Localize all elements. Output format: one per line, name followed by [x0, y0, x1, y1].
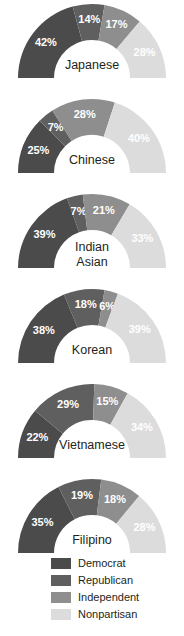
slice-value-label: 34% [131, 421, 153, 433]
slice-value-label: 28% [133, 521, 155, 533]
slice-value-label: 33% [131, 232, 153, 244]
slice-value-label: 35% [31, 516, 53, 528]
legend-item-nonpartisan: Nonpartisan [0, 607, 184, 622]
chart-svg: 42%14%17%28%Japanese [0, 0, 184, 95]
slice-value-label: 42% [35, 36, 57, 48]
half-donut-chart: 38%18%6%39%Korean [0, 285, 184, 380]
slice-value-label: 17% [105, 18, 127, 30]
slice-value-label: 14% [78, 13, 100, 25]
legend-swatch-icon [51, 575, 71, 586]
chart-svg: 25%7%28%40%Chinese [0, 95, 184, 190]
chart-group-name: Vietnamese [59, 438, 125, 452]
half-donut-chart: 22%29%15%34%Vietnamese [0, 380, 184, 475]
slice-value-label: 28% [134, 46, 156, 58]
chart-group-name: Asian [76, 255, 107, 269]
chart-legend: DemocratRepublicanIndependentNonpartisan [0, 556, 184, 624]
chart-group-name: Indian [75, 240, 109, 254]
slice-value-label: 22% [26, 431, 48, 443]
legend-label: Independent [78, 592, 139, 603]
legend-label: Republican [78, 575, 133, 586]
slice-value-label: 21% [93, 204, 115, 216]
slice-value-label: 18% [75, 298, 97, 310]
legend-label: Nonpartisan [78, 609, 137, 620]
slice-value-label: 29% [57, 398, 79, 410]
legend-swatch-icon [51, 609, 71, 620]
legend-item-independent: Independent [0, 590, 184, 605]
half-donut-chart: 39%7%21%33%IndianAsian [0, 190, 184, 285]
chart-group-name: Filipino [72, 533, 112, 547]
slice-value-label: 40% [128, 132, 150, 144]
chart-svg: 22%29%15%34%Vietnamese [0, 380, 184, 475]
slice-value-label: 15% [96, 395, 118, 407]
chart-group-name: Japanese [65, 58, 119, 72]
slice-value-label: 39% [33, 228, 55, 240]
slice-value-label: 38% [33, 324, 55, 336]
legend-label: Democrat [78, 558, 126, 569]
half-donut-chart: 25%7%28%40%Chinese [0, 95, 184, 190]
slice-value-label: 19% [71, 489, 93, 501]
legend-swatch-icon [51, 558, 71, 569]
half-donut-chart: 42%14%17%28%Japanese [0, 0, 184, 95]
legend-swatch-icon [51, 592, 71, 603]
legend-item-republican: Republican [0, 573, 184, 588]
charts-container: 42%14%17%28%Japanese25%7%28%40%Chinese39… [0, 0, 184, 570]
slice-value-label: 25% [27, 144, 49, 156]
chart-group-name: Korean [72, 343, 112, 357]
slice-value-label: 28% [74, 108, 96, 120]
chart-svg: 38%18%6%39%Korean [0, 285, 184, 380]
party-affiliation-half-donut-figure: 42%14%17%28%Japanese25%7%28%40%Chinese39… [0, 0, 184, 636]
slice-value-label: 18% [104, 493, 126, 505]
chart-svg: 39%7%21%33%IndianAsian [0, 190, 184, 285]
chart-group-name: Chinese [69, 153, 115, 167]
slice-value-label: 39% [129, 323, 151, 335]
legend-item-democrat: Democrat [0, 556, 184, 571]
